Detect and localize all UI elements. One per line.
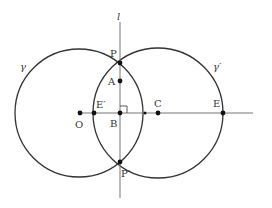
labels-group: γγ′lPABP′OE′CE [20, 11, 222, 179]
point-label-P: P [110, 48, 117, 59]
point-label-C: C [154, 98, 162, 109]
point-label-O: O [75, 119, 83, 130]
point-axis-intersect [144, 112, 147, 115]
geometry-diagram: γγ′lPABP′OE′CE [0, 0, 272, 208]
point-B [118, 111, 123, 116]
point-O [78, 111, 83, 116]
point-E [221, 111, 226, 116]
point-label-E-prime: E′ [96, 99, 106, 110]
point-label-B: B [110, 118, 117, 129]
point-P-prime [118, 160, 123, 165]
line-l-label: l [117, 11, 120, 22]
point-label-E: E [213, 98, 220, 109]
point-C [156, 111, 161, 116]
point-A [118, 79, 123, 84]
point-label-A: A [107, 76, 116, 87]
point-label-P-prime: P′ [121, 168, 131, 179]
point-P [118, 61, 123, 66]
circle-label-gamma: γ [20, 61, 26, 72]
circle-label-gamma-prime: γ′ [213, 61, 222, 72]
point-E-prime [92, 111, 97, 116]
